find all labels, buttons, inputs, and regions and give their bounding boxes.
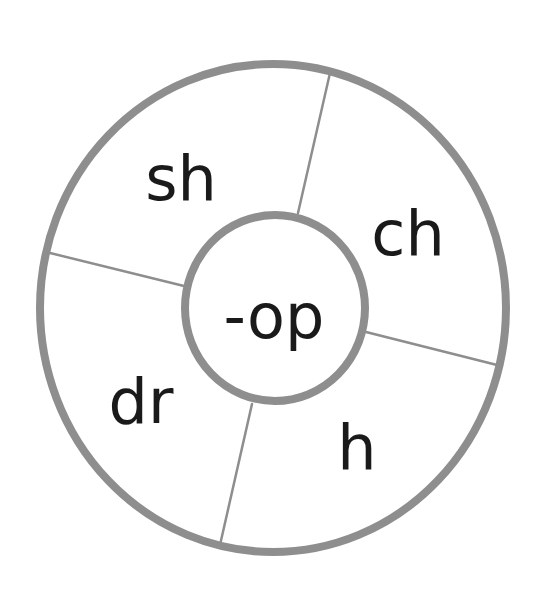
center-label-word-ending: -op xyxy=(224,280,325,353)
segment-label-dr: dr xyxy=(109,365,174,438)
word-wheel-diagram: sh ch h dr -op xyxy=(0,0,544,601)
divider-top xyxy=(298,73,330,213)
segment-label-sh: sh xyxy=(145,142,217,215)
divider-left xyxy=(46,252,184,286)
divider-right xyxy=(366,332,501,366)
segment-label-ch: ch xyxy=(371,197,444,270)
divider-bottom xyxy=(220,404,252,545)
segment-label-h: h xyxy=(337,411,376,484)
